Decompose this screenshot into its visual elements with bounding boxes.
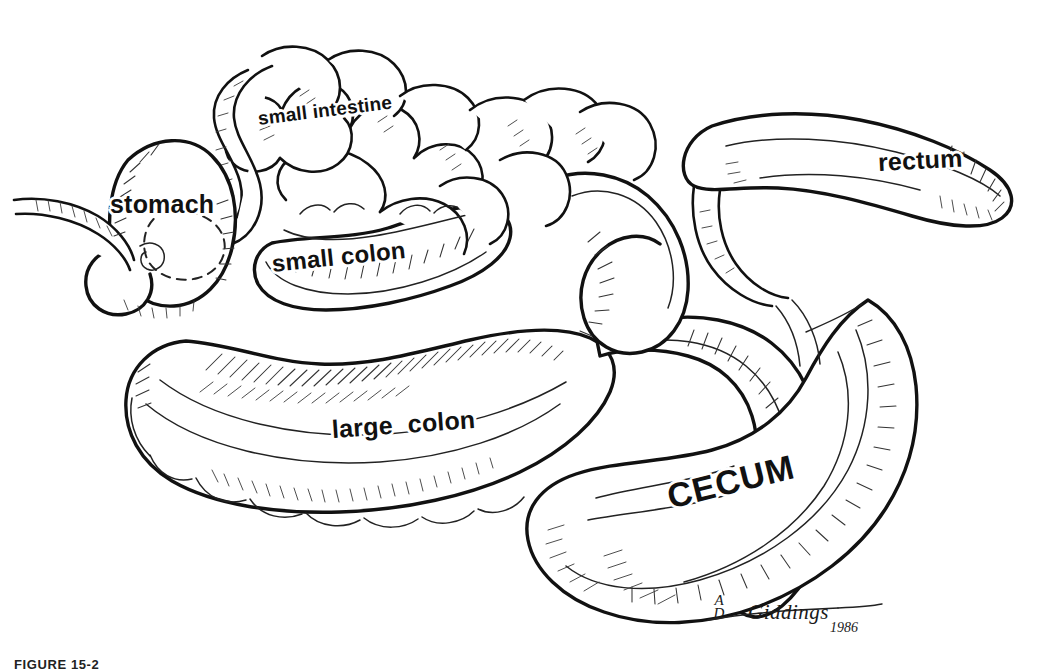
organ-pelvic-flexure [556,173,688,353]
figure-illustration: .organ { fill:#ffffff; stroke:#111111; s… [0,0,1056,670]
organ-descending-link [693,186,788,306]
figure-caption: FIGURE 15-2 [14,657,99,670]
organ-rectum [683,114,1011,226]
organ-stomach [14,141,235,318]
digestive-tract-drawing: .organ { fill:#ffffff; stroke:#111111; s… [0,0,1056,670]
